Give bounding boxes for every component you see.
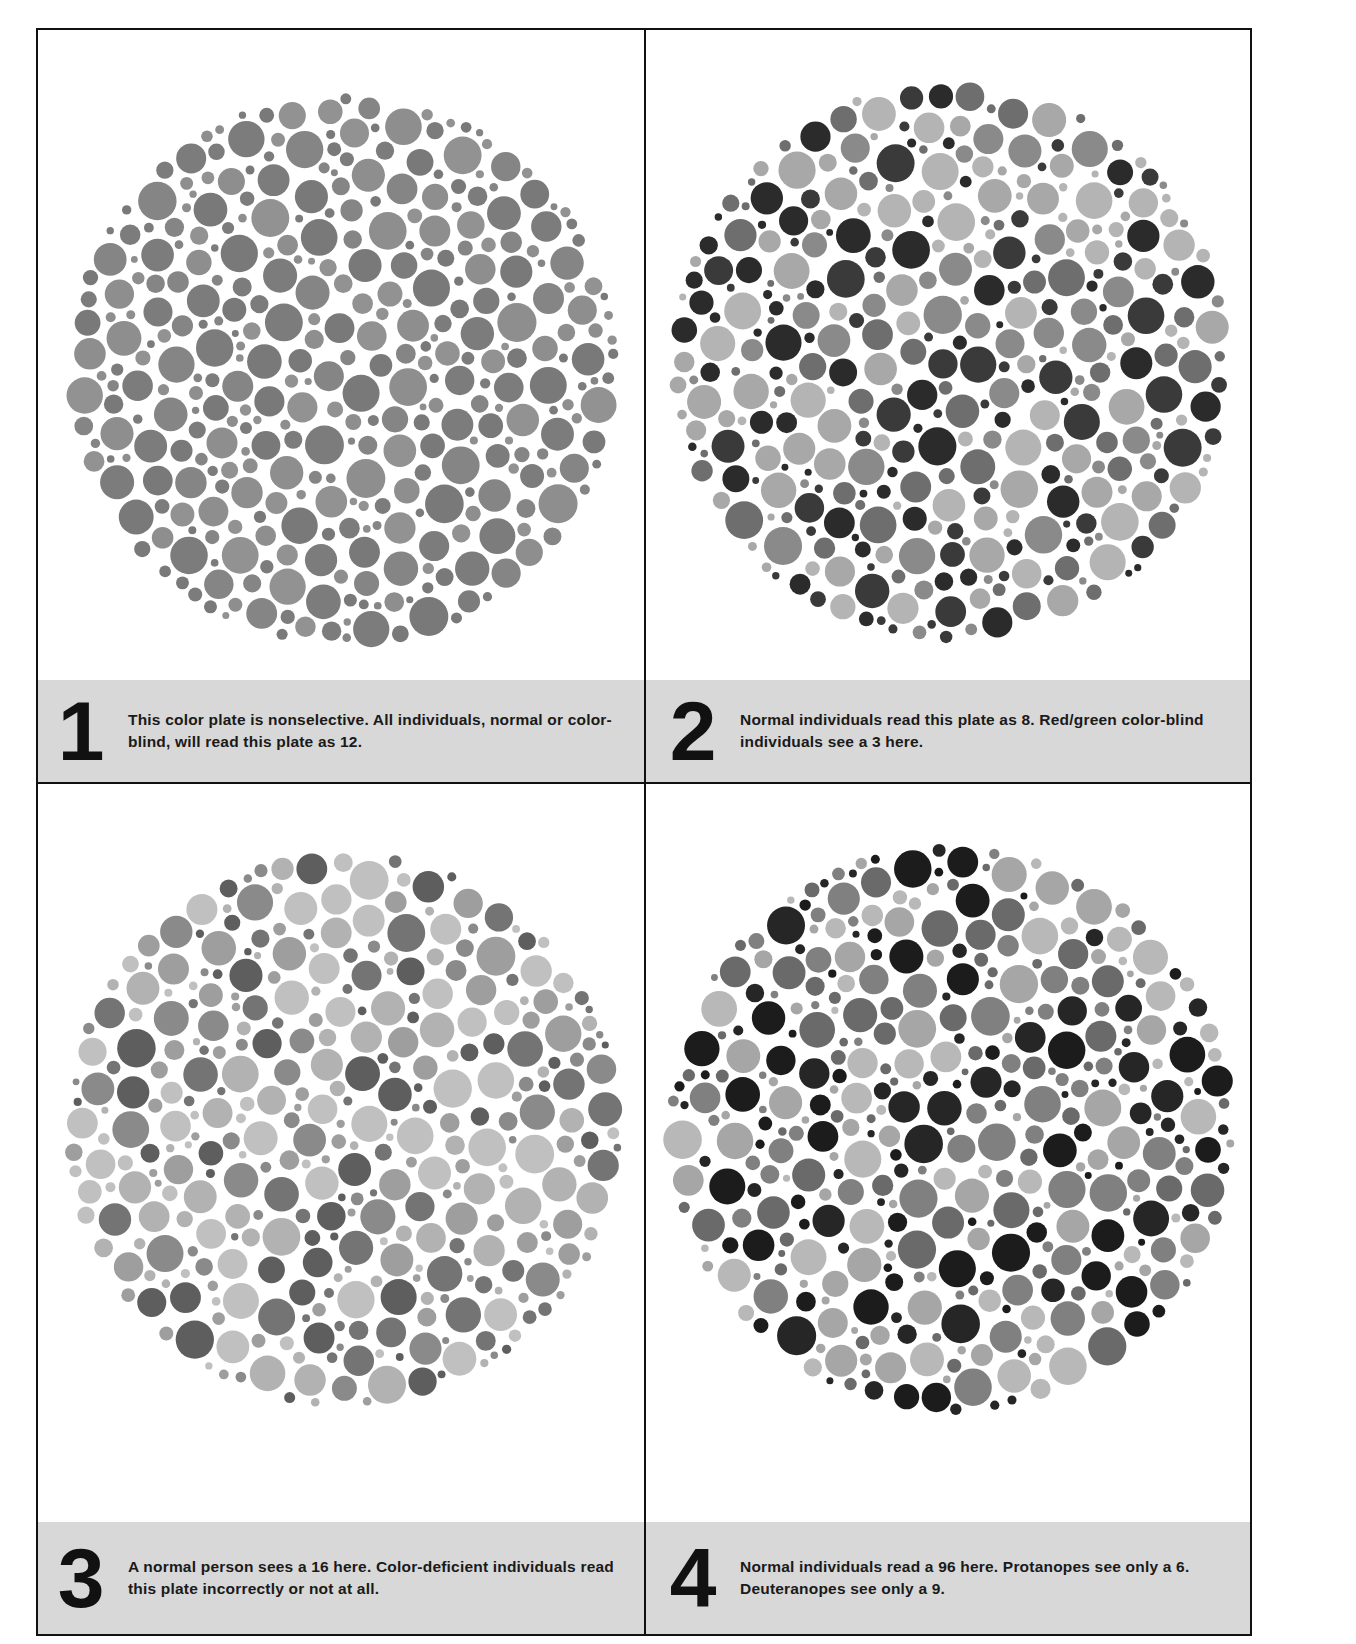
plate-caption-2: Normal individuals read this plate as 8.… xyxy=(740,709,1238,753)
plate-number-3: 3 xyxy=(44,1536,116,1620)
color-plate-1 xyxy=(38,30,642,680)
caption-band-3: 3 A normal person sees a 16 here. Color-… xyxy=(38,1522,644,1634)
figure-frame: 1 This color plate is nonselective. All … xyxy=(36,28,1252,1636)
plate-caption-4: Normal individuals read a 96 here. Prota… xyxy=(740,1556,1238,1600)
caption-band-1: 1 This color plate is nonselective. All … xyxy=(38,680,644,782)
plate-cell-1: 1 This color plate is nonselective. All … xyxy=(38,30,646,784)
plate-number-2: 2 xyxy=(656,689,728,773)
plate-caption-3: A normal person sees a 16 here. Color-de… xyxy=(128,1556,632,1600)
plate-cell-2: 2 Normal individuals read this plate as … xyxy=(646,30,1250,784)
color-plate-3 xyxy=(38,784,642,1520)
caption-band-2: 2 Normal individuals read this plate as … xyxy=(646,680,1250,782)
plate-number-4: 4 xyxy=(656,1536,728,1620)
plate-caption-1: This color plate is nonselective. All in… xyxy=(128,709,632,753)
color-plate-2 xyxy=(646,30,1250,680)
plate-cell-4: 4 Normal individuals read a 96 here. Pro… xyxy=(646,784,1250,1634)
plate-cell-3: 3 A normal person sees a 16 here. Color-… xyxy=(38,784,646,1634)
caption-band-4: 4 Normal individuals read a 96 here. Pro… xyxy=(646,1522,1250,1634)
plate-number-1: 1 xyxy=(44,689,116,773)
color-plate-4 xyxy=(646,784,1250,1520)
